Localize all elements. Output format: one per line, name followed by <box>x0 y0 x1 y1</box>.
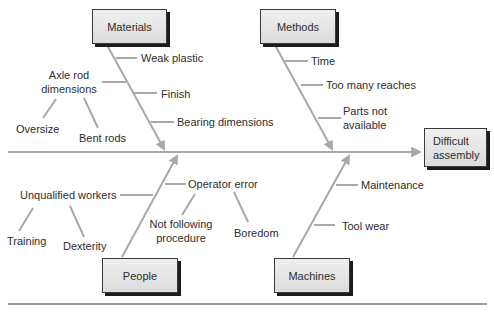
machines-box: Machines <box>274 258 350 293</box>
methods-box: Methods <box>260 9 336 44</box>
people-box: People <box>102 258 178 293</box>
parts-line1: Parts not <box>343 104 387 118</box>
sub-cause-not-following-procedure: Not following procedure <box>146 217 216 245</box>
cause-weak-plastic: Weak plastic <box>141 51 203 65</box>
cause-too-many-reaches: Too many reaches <box>326 78 416 92</box>
sub-cause-oversize: Oversize <box>16 122 59 136</box>
effect-label-line2: assembly <box>433 148 479 162</box>
bent-rods-sub <box>84 98 98 128</box>
nfp-sub <box>182 194 195 215</box>
cause-tool-wear: Tool wear <box>342 219 389 233</box>
oversize-sub <box>43 99 56 118</box>
nfp-line1: Not following <box>146 217 216 231</box>
training-sub <box>19 208 33 231</box>
fishbone-diagram <box>0 0 494 313</box>
parts-line2: available <box>343 118 387 132</box>
cause-maintenance: Maintenance <box>361 178 424 192</box>
axle-rod-line2: dimensions <box>34 82 104 96</box>
materials-label: Materials <box>107 20 152 34</box>
cause-finish: Finish <box>161 87 190 101</box>
people-label: People <box>123 269 157 283</box>
sub-cause-dexterity: Dexterity <box>63 239 106 253</box>
sub-cause-training: Training <box>7 234 46 248</box>
effect-box: Difficult assembly <box>424 128 487 167</box>
cause-parts-not-available: Parts not available <box>343 104 387 132</box>
cause-time: Time <box>311 54 335 68</box>
cause-bearing-dimensions: Bearing dimensions <box>177 115 274 129</box>
cause-operator-error: Operator error <box>188 177 258 191</box>
materials-box: Materials <box>92 9 167 44</box>
cause-axle-rod-dimensions: Axle rod dimensions <box>34 68 104 96</box>
sub-cause-bent-rods: Bent rods <box>79 131 126 145</box>
axle-rod-line1: Axle rod <box>34 68 104 82</box>
boredom-sub <box>234 192 248 222</box>
sub-cause-boredom: Boredom <box>234 226 279 240</box>
machines-bone <box>293 156 349 257</box>
machines-label: Machines <box>288 269 335 283</box>
methods-label: Methods <box>277 20 319 34</box>
cause-unqualified-workers: Unqualified workers <box>20 188 117 202</box>
effect-label-line1: Difficult <box>433 134 469 148</box>
dexterity-sub <box>70 206 84 237</box>
nfp-line2: procedure <box>146 231 216 245</box>
